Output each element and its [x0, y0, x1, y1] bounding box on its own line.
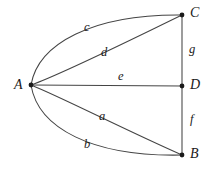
edge-e-path	[31, 85, 182, 86]
edge-label-e: e	[118, 70, 124, 83]
node-label-d: D	[190, 78, 200, 92]
edge-label-d: d	[101, 46, 107, 59]
node-label-c: C	[190, 6, 199, 20]
node-dot-b	[180, 153, 185, 158]
edge-label-g: g	[189, 43, 195, 56]
node-label-b: B	[190, 147, 199, 161]
edge-a-path	[31, 85, 182, 155]
graph-diagram: A C D B c d e a b g f	[0, 0, 207, 171]
edge-label-f: f	[190, 113, 193, 126]
edge-label-b: b	[84, 138, 90, 151]
edge-label-c: c	[84, 21, 90, 34]
node-dot-a	[29, 83, 34, 88]
node-label-a: A	[14, 78, 23, 92]
edge-label-a: a	[99, 110, 105, 123]
graph-canvas	[0, 0, 207, 171]
node-dot-d	[180, 84, 185, 89]
node-dot-c	[180, 13, 185, 18]
